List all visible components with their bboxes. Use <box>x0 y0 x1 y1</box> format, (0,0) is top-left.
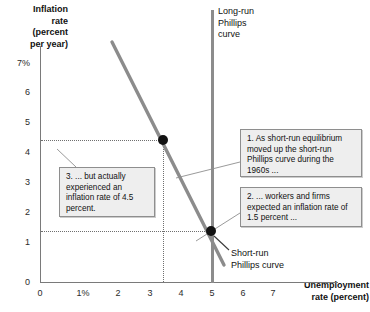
x-axis-line <box>40 282 338 283</box>
callout-step-3: 3. ... but actually experienced an infla… <box>59 167 155 217</box>
y-tick-5: 5 <box>4 117 30 128</box>
y-tick-6: 6 <box>4 87 30 98</box>
x-axis-title: Unemployment rate (percent) <box>283 280 369 303</box>
y-tick-2: 2 <box>4 207 30 218</box>
y-axis-title: Inflation rate (percent per year) <box>0 4 68 50</box>
data-point-short-run-equilibrium <box>158 135 168 145</box>
x-tick-6: 6 <box>232 288 254 299</box>
long-run-curve-label: Long-run Phillips curve <box>218 6 254 41</box>
y-tick-7: 7% <box>4 58 30 69</box>
x-tick-5: 5 <box>201 288 223 299</box>
x-tick-0: 0 <box>29 288 51 299</box>
x-tick-4: 4 <box>170 288 192 299</box>
y-axis-line <box>40 46 41 283</box>
data-point-expected-equilibrium <box>206 226 216 236</box>
x-tick-1: 1% <box>72 288 94 299</box>
y-tick-1: 1 <box>4 237 30 248</box>
x-tick-7: 7 <box>262 288 284 299</box>
x-tick-2: 2 <box>107 288 129 299</box>
callout-step-2: 2. ... workers and firms expected an inf… <box>240 187 362 227</box>
x-tick-3: 3 <box>139 288 161 299</box>
y-tick-3: 3 <box>4 177 30 188</box>
phillips-curve-figure: Inflation rate (percent per year) Unempl… <box>0 0 370 312</box>
y-tick-0: 0 <box>4 277 30 288</box>
y-tick-4: 4 <box>4 147 30 158</box>
short-run-curve-label: Short-run Phillips curve <box>231 248 284 271</box>
callout-step-1: 1. As short-run equilibrium moved up the… <box>240 129 362 177</box>
